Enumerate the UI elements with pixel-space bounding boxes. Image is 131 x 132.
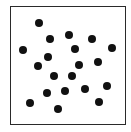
dot [75,61,83,69]
dot [50,72,58,80]
dot [71,45,79,53]
dot [34,62,42,70]
square-frame [10,6,126,125]
dot [88,35,96,43]
dot [65,31,73,39]
dot [44,53,52,61]
dot [94,58,102,66]
dot [95,98,103,106]
dot [46,35,54,43]
dot [81,85,89,93]
dot [68,72,76,80]
dot [19,46,27,54]
dot [35,19,43,27]
dot [108,44,116,52]
dot [61,87,69,95]
dot [103,82,111,90]
dot [26,99,34,107]
dot [54,105,62,113]
dot [43,89,51,97]
